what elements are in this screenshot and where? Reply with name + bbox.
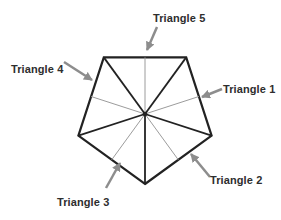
diagram-canvas: Triangle 5 Triangle 4 Triangle 1 Triangl… (0, 0, 281, 220)
center-dot (143, 112, 148, 117)
diagram-background (0, 0, 281, 220)
label-triangle-4: Triangle 4 (11, 63, 64, 75)
label-triangle-5: Triangle 5 (153, 12, 205, 24)
label-triangle-1: Triangle 1 (223, 83, 275, 95)
pentagon-diagram: Triangle 5 Triangle 4 Triangle 1 Triangl… (0, 0, 281, 220)
label-triangle-2: Triangle 2 (210, 174, 262, 186)
label-triangle-3: Triangle 3 (57, 196, 109, 208)
